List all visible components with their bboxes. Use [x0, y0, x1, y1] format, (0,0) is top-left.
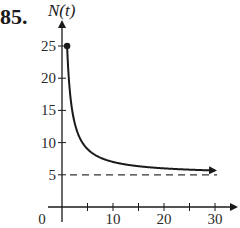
- y-tick-label: 20: [41, 70, 56, 86]
- x-tick-label: 30: [208, 211, 223, 227]
- axes: [48, 22, 236, 222]
- y-tick-label: 25: [41, 38, 56, 54]
- curve-n-of-t: [67, 46, 215, 171]
- chart: 0102030510152025: [0, 0, 240, 228]
- y-tick-label: 10: [41, 135, 56, 151]
- y-tick-label: 15: [41, 102, 56, 118]
- start-point-dot: [64, 43, 70, 49]
- x-tick-label: 0: [38, 211, 46, 227]
- y-tick-label: 5: [49, 167, 57, 183]
- ticks: 0102030510152025: [38, 38, 222, 227]
- series: [64, 43, 217, 175]
- x-tick-label: 10: [106, 211, 121, 227]
- x-tick-label: 20: [157, 211, 172, 227]
